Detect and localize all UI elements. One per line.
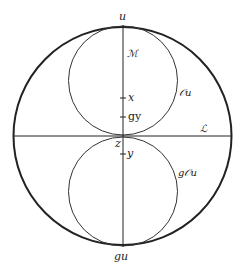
label-x: x: [128, 92, 134, 103]
label-gy: gy: [128, 111, 141, 122]
label-O-u: 𝒪u: [179, 88, 191, 98]
label-u: u: [119, 11, 126, 22]
label-M: ℳ: [127, 49, 138, 59]
label-y: y: [127, 148, 133, 159]
label-z: z: [115, 138, 121, 149]
label-gu: gu: [114, 251, 128, 262]
diagram-canvas: [0, 0, 243, 274]
label-L: ℒ: [200, 124, 207, 134]
label-gO-u: g𝒪u: [178, 168, 197, 178]
